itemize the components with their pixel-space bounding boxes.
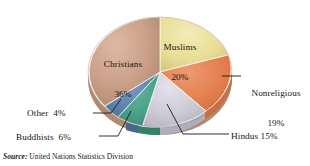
pie-label-muslims-value: 20% [152,72,208,82]
pie-label-muslims-name: Muslims [152,42,208,52]
source-value: United Nations Statistics Division [27,152,132,161]
pie-label-christians-value: 36% [92,89,154,99]
pie-label-christians-name: Christians [92,59,154,69]
pie-label-nonreligious-value: 19% [243,118,309,128]
pie-label-muslims: Muslims 20% [152,21,208,103]
pie-label-nonreligious-name: Nonreligious [243,88,309,98]
pie-label-other: Other 4% [27,108,93,118]
pie-chart-figure: Christians 36% Muslims 20% Nonreligious … [0,0,310,166]
pie-label-christians: Christians 36% [92,38,154,120]
pie-label-buddhists: Buddhists 6% [16,132,96,142]
source-note: Source: United Nations Statistics Divisi… [3,152,133,161]
pie-label-hindus: Hindus 15% [231,131,307,141]
source-label: Source: [3,152,27,161]
